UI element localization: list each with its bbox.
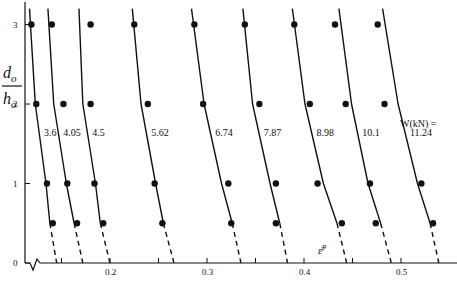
data-point [418, 180, 424, 186]
curve-extrapolation-dashed [280, 223, 288, 263]
curve-solid [383, 9, 431, 224]
y-axis-label-numerator: do [3, 64, 17, 84]
data-point [159, 220, 165, 226]
data-point [91, 180, 97, 186]
x-tick-label: 0.2 [105, 267, 116, 277]
data-point [145, 101, 151, 107]
curve-label: 6.74 [215, 127, 233, 138]
curve-solid [191, 9, 232, 224]
data-point [100, 220, 106, 226]
data-point [44, 180, 50, 186]
curve-label: 10.1 [362, 127, 380, 138]
data-point [256, 101, 262, 107]
y-axis-label-denominator: ho [3, 90, 17, 110]
data-point [50, 220, 56, 226]
curve-solid [243, 9, 280, 224]
data-points [28, 21, 436, 226]
data-point [332, 21, 338, 27]
curve-solid [132, 9, 163, 224]
data-point [225, 180, 231, 186]
data-point [291, 21, 297, 27]
legend-title: W(kN) = [400, 118, 437, 130]
data-point [151, 180, 157, 186]
data-point [74, 220, 80, 226]
curve-extrapolation-dashed [381, 223, 392, 263]
curve-label: 3.6 [44, 127, 57, 138]
data-point [307, 101, 313, 107]
data-point [381, 101, 387, 107]
data-point [49, 21, 55, 27]
chart-canvas: 01230.20.30.40.5 3.64.054.55.626.747.878… [0, 0, 457, 282]
data-point [33, 101, 39, 107]
curve-label: 5.62 [151, 127, 169, 138]
data-point [60, 101, 66, 107]
y-tick-label: 1 [13, 179, 18, 189]
data-point [87, 21, 93, 27]
data-point [367, 180, 373, 186]
curve-label: 7.87 [264, 127, 282, 138]
curve-extrapolation-dashed [50, 223, 57, 263]
data-point [375, 21, 381, 27]
curve-extrapolation-dashed [232, 223, 241, 263]
curve-label: 8.98 [316, 127, 334, 138]
x-tick-label: 0.4 [299, 267, 311, 277]
data-point [339, 220, 345, 226]
data-point [430, 220, 436, 226]
data-point [131, 21, 137, 27]
data-point [200, 101, 206, 107]
data-point [314, 180, 320, 186]
curve-extrapolation-dashed [74, 223, 83, 263]
data-point [373, 220, 379, 226]
chart: 01230.20.30.40.5 3.64.054.55.626.747.878… [0, 0, 457, 282]
y-tick-label: 0 [13, 258, 18, 268]
curve-extrapolation-dashed [337, 223, 347, 263]
data-point [191, 21, 197, 27]
data-point [242, 21, 248, 27]
data-point [273, 180, 279, 186]
curve-solid [292, 9, 337, 224]
curve-extrapolation-dashed [163, 223, 174, 263]
x-tick-label: 0.5 [396, 267, 408, 277]
data-point [273, 220, 279, 226]
x-tick-label: 0.3 [202, 267, 214, 277]
y-tick-label: 3 [13, 20, 18, 30]
curve-solid [339, 9, 381, 224]
curve-labels: 3.64.054.55.626.747.878.9810.111.24 [44, 127, 432, 138]
data-point [87, 101, 93, 107]
curve-label: 4.05 [63, 127, 81, 138]
x-axis-label: ε̄p [318, 242, 326, 256]
data-point [228, 220, 234, 226]
data-point [343, 101, 349, 107]
data-point [28, 21, 34, 27]
curve-label: 4.5 [92, 127, 105, 138]
curve-extrapolation-dashed [430, 223, 439, 263]
curve-solid [79, 9, 100, 224]
curve-extrapolation-dashed [100, 223, 110, 263]
data-point [64, 180, 70, 186]
curve-solid [48, 9, 74, 224]
curve-solid [29, 9, 49, 224]
